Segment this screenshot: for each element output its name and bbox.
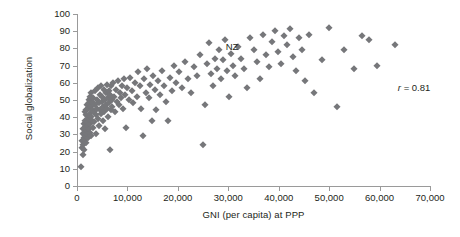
data-point xyxy=(181,58,189,66)
y-tick-label: 90 xyxy=(30,26,70,36)
x-axis-title: GNI (per capita) at PPP xyxy=(77,209,430,220)
data-point xyxy=(154,77,162,85)
x-tick-mark xyxy=(329,187,330,191)
data-point xyxy=(101,125,109,133)
data-point xyxy=(136,82,144,90)
data-point xyxy=(271,27,279,35)
y-tick-label: 30 xyxy=(30,129,70,139)
data-point xyxy=(172,79,180,87)
data-point xyxy=(215,46,223,54)
data-point xyxy=(166,74,174,82)
data-point xyxy=(325,24,333,32)
data-point xyxy=(250,46,258,54)
data-point xyxy=(310,89,318,97)
data-point xyxy=(265,64,273,72)
data-point xyxy=(137,105,145,113)
data-point xyxy=(244,84,252,92)
correlation-r-symbol: r xyxy=(398,82,401,93)
data-point xyxy=(140,76,148,84)
data-point xyxy=(340,46,348,54)
x-tick-mark xyxy=(178,187,179,191)
data-point xyxy=(156,91,164,99)
data-point xyxy=(391,41,399,49)
data-point xyxy=(160,82,168,90)
data-point xyxy=(256,76,264,84)
x-tick-mark xyxy=(228,187,229,191)
x-tick-mark xyxy=(279,187,280,191)
data-point xyxy=(305,31,313,39)
data-point xyxy=(112,108,120,116)
data-point xyxy=(298,46,306,54)
data-point xyxy=(123,124,131,132)
data-point xyxy=(219,57,227,65)
data-point xyxy=(241,65,249,73)
data-point xyxy=(253,58,261,66)
data-point xyxy=(277,60,285,68)
data-point xyxy=(295,34,303,42)
y-tick-label: 40 xyxy=(30,112,70,122)
y-tick-label: 60 xyxy=(30,78,70,88)
data-point xyxy=(333,103,341,111)
data-point xyxy=(190,64,198,72)
data-point xyxy=(175,69,183,77)
data-point xyxy=(232,72,240,80)
y-tick-label: 70 xyxy=(30,61,70,71)
data-point xyxy=(158,67,166,75)
data-point xyxy=(268,38,276,46)
data-point xyxy=(106,146,114,154)
data-point xyxy=(152,107,160,115)
data-point xyxy=(262,51,270,59)
plot-area xyxy=(77,14,430,186)
data-point xyxy=(162,98,170,106)
data-point xyxy=(274,48,282,56)
data-point xyxy=(184,76,192,84)
x-tick-mark xyxy=(430,187,431,191)
data-point xyxy=(201,101,209,109)
data-point xyxy=(143,65,151,73)
data-point xyxy=(205,39,213,47)
x-axis-line xyxy=(77,186,431,187)
data-point xyxy=(203,60,211,68)
data-point xyxy=(289,53,297,61)
y-tick-label: 20 xyxy=(30,147,70,157)
data-point xyxy=(164,117,172,125)
y-tick-label: 0 xyxy=(30,181,70,191)
data-point xyxy=(217,76,225,84)
data-point xyxy=(351,65,359,73)
scatter-plot-figure: Social globalization GNI (per capita) at… xyxy=(0,0,460,237)
data-point xyxy=(366,36,374,44)
data-point xyxy=(318,57,326,65)
data-point xyxy=(259,31,267,39)
annotation-nz: NZ xyxy=(226,42,239,52)
data-point xyxy=(238,55,246,63)
data-point xyxy=(286,26,294,34)
data-point xyxy=(77,163,85,171)
x-tick-mark xyxy=(380,187,381,191)
data-point xyxy=(178,84,186,92)
data-point xyxy=(168,88,176,96)
data-point xyxy=(373,62,381,70)
y-tick-label: 10 xyxy=(30,164,70,174)
y-tick-label: 80 xyxy=(30,43,70,53)
data-point xyxy=(170,62,178,70)
data-point xyxy=(283,41,291,49)
data-point xyxy=(187,89,195,97)
x-tick-label: 70,000 xyxy=(400,193,460,203)
x-tick-mark xyxy=(127,187,128,191)
data-point xyxy=(199,141,207,149)
data-point xyxy=(211,55,219,63)
data-point xyxy=(230,62,238,70)
x-tick-mark xyxy=(77,187,78,191)
data-point xyxy=(196,51,204,59)
data-point xyxy=(207,70,215,78)
data-point xyxy=(280,33,288,41)
data-point xyxy=(145,94,153,102)
data-point xyxy=(148,117,156,125)
y-tick-label: 50 xyxy=(30,95,70,105)
y-tick-label: 100 xyxy=(30,9,70,19)
data-point xyxy=(134,69,142,77)
data-point xyxy=(209,82,217,90)
data-point xyxy=(193,72,201,80)
data-point xyxy=(292,67,300,75)
data-point xyxy=(120,105,128,113)
